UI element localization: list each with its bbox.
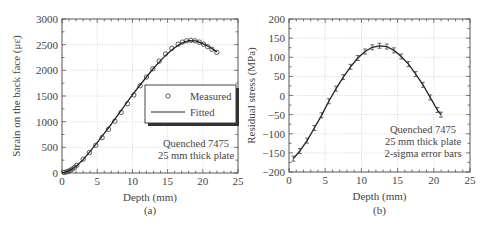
y-axis-label: Strain on the back face (με) — [10, 35, 23, 157]
y-tick-label: −100 — [262, 128, 285, 140]
legend-label: Measured — [190, 91, 232, 102]
y-axis-label: Residual stress (MPa) — [245, 47, 258, 144]
y-tick-label: 0 — [53, 167, 59, 179]
annotation-text: 2-sigma error bars — [385, 148, 462, 159]
x-tick-label: 0 — [59, 175, 65, 187]
y-tick-label: 150 — [269, 32, 286, 44]
x-tick-label: 25 — [465, 174, 477, 186]
chart-b: 0510152025−200−150−100−50050100150200Dep… — [245, 13, 476, 217]
x-tick-label: 15 — [392, 174, 404, 186]
figure: 0510152025050010001500200025003000Depth … — [0, 0, 490, 233]
y-tick-label: 3000 — [36, 13, 59, 25]
y-tick-label: 500 — [42, 141, 59, 153]
x-tick-label: 10 — [356, 174, 368, 186]
y-tick-label: −150 — [262, 147, 285, 159]
annotation-text: Quenched 7475 — [390, 124, 456, 135]
annotation-text: Quenched 7475 — [163, 138, 229, 149]
x-tick-label: 0 — [286, 174, 292, 186]
y-tick-label: 100 — [269, 51, 286, 63]
figure-caption: (b) — [373, 204, 386, 217]
y-tick-label: −200 — [262, 166, 285, 178]
figure-caption: (a) — [144, 204, 157, 217]
legend: MeasuredFitted — [145, 85, 239, 126]
y-tick-label: 1500 — [36, 90, 59, 102]
y-tick-label: 2000 — [36, 64, 59, 76]
x-tick-label: 5 — [322, 174, 328, 186]
legend-label: Fitted — [190, 107, 215, 118]
y-tick-label: 1000 — [36, 116, 59, 128]
x-tick-label: 15 — [162, 175, 174, 187]
x-tick-label: 20 — [428, 174, 440, 186]
y-tick-label: 200 — [269, 13, 286, 25]
x-tick-label: 5 — [94, 175, 100, 187]
y-tick-label: 2500 — [36, 39, 59, 51]
chart-a: 0510152025050010001500200025003000Depth … — [10, 13, 244, 217]
x-axis-label: Depth (mm) — [123, 191, 177, 204]
x-axis-label: Depth (mm) — [352, 190, 406, 203]
x-tick-label: 10 — [127, 175, 139, 187]
y-tick-label: 50 — [274, 70, 286, 82]
annotation-text: 25 mm thick plate — [158, 150, 234, 161]
y-tick-label: 0 — [280, 90, 286, 102]
x-tick-label: 20 — [197, 175, 209, 187]
x-tick-label: 25 — [233, 175, 245, 187]
annotation-text: 25 mm thick plate — [385, 136, 461, 147]
y-tick-label: −50 — [268, 109, 286, 121]
